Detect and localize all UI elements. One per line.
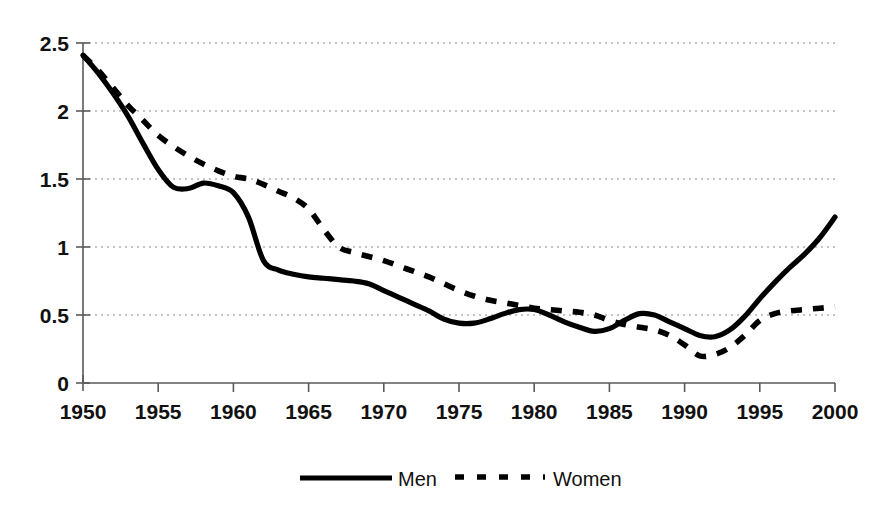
y-tick-label: 1.5 xyxy=(40,168,70,191)
line-chart: 00.511.522.5 195019551960196519701975198… xyxy=(0,0,896,511)
x-tick-label: 2000 xyxy=(812,400,859,423)
x-tick-label: 1950 xyxy=(60,400,107,423)
y-tick-label: 2 xyxy=(57,100,69,123)
chart-legend: Men Women xyxy=(300,468,622,490)
y-tick-label: 1 xyxy=(57,236,69,259)
series-line-women xyxy=(83,55,835,356)
x-tick-label: 1970 xyxy=(360,400,407,423)
x-tick-label: 1995 xyxy=(736,400,783,423)
x-tick-label: 1975 xyxy=(436,400,483,423)
gridline-group xyxy=(83,43,835,315)
y-tick-label: 2.5 xyxy=(40,32,70,55)
y-tick-label: 0.5 xyxy=(40,304,70,327)
chart-canvas: 00.511.522.5 195019551960196519701975198… xyxy=(0,0,896,511)
x-tick-label: 1965 xyxy=(285,400,332,423)
y-tick-label: 0 xyxy=(57,372,69,395)
x-tick-label: 1955 xyxy=(135,400,182,423)
series-line-men xyxy=(83,55,835,337)
x-tick-label: 1990 xyxy=(661,400,708,423)
x-tick-label: 1985 xyxy=(586,400,633,423)
x-tick-label: 1980 xyxy=(511,400,558,423)
legend-label-women: Women xyxy=(553,468,622,490)
series-group xyxy=(83,55,835,356)
x-tick-label: 1960 xyxy=(210,400,257,423)
axis-group xyxy=(83,43,835,392)
legend-label-men: Men xyxy=(398,468,437,490)
